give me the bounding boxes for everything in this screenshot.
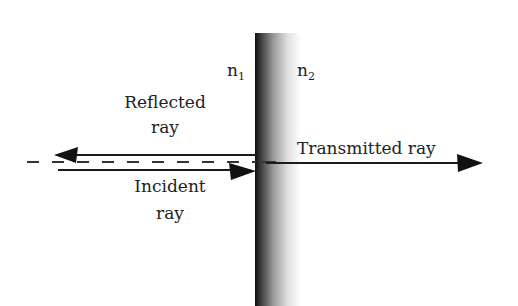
incident-arrowhead-icon [229, 163, 256, 180]
reflected-ray-label: Reflected ray [105, 92, 225, 137]
incident-ray-label: Incident ray [110, 176, 230, 223]
incident-label-line1: Incident [110, 176, 230, 196]
medium-1-label: n1 [227, 60, 245, 83]
medium-2-label: n2 [297, 60, 315, 83]
reflected-arrowhead-icon [54, 147, 78, 163]
reflected-label-line2: ray [105, 117, 225, 137]
transmitted-ray-label: Transmitted ray [297, 138, 436, 158]
optics-diagram: n1 n2 Reflected ray Incident ray Transmi… [0, 0, 518, 306]
transmitted-arrowhead-icon [457, 154, 483, 172]
reflected-label-line1: Reflected [105, 92, 225, 112]
diagram-canvas [0, 0, 518, 306]
interface-boundary [255, 33, 301, 306]
incident-label-line2: ray [110, 203, 230, 223]
reflected-ray [54, 147, 256, 163]
